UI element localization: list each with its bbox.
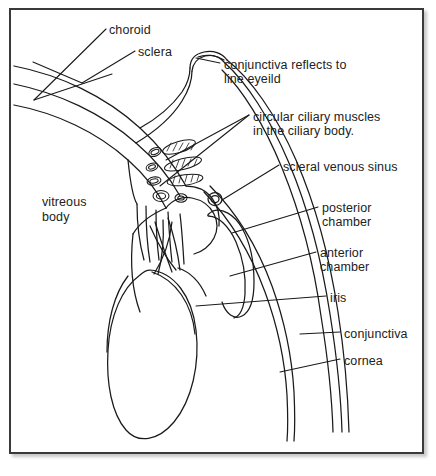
label-conjunctiva-fornix-line2: line eyeild [224,72,281,87]
leader-choroid [34,29,106,100]
ciliary-muscle-bundles [145,137,203,202]
label-iris: iris [330,291,346,306]
leader-sclera [82,51,135,83]
leader-cornea [280,359,340,372]
leader-iris [196,296,326,306]
lens-iris-contact [178,268,206,296]
label-conjunctiva-fornix: conjunctiva reflects to [224,58,347,73]
leader-conjunctiva [300,332,340,334]
leader-scleral-venous-sinus [222,165,279,200]
iris-root [208,211,213,216]
choroid-inner-wall [14,105,166,208]
label-scleral-venous-sinus: scleral venous sinus [283,160,398,175]
label-vitreous-body: vitreous [42,195,87,210]
ciliary-body-outline [166,197,217,254]
label-cornea: cornea [344,354,383,369]
lens-equator-left [107,276,128,352]
sclera-upper-limb [140,68,190,128]
label-posterior-chamber: posterior [322,201,372,216]
leader-conjunctiva-fornix [196,58,220,63]
label-choroid: choroid [109,23,151,38]
label-vitreous-body-line2: body [42,210,70,225]
label-ciliary-muscles-line2: in the ciliary body. [253,124,354,139]
label-posterior-chamber-line2: chamber [322,215,371,230]
label-anterior-chamber-line2: chamber [320,260,369,275]
label-ciliary-muscles: circular ciliary muscles [253,110,380,125]
leader-ciliary-muscles-a [166,115,249,160]
ciliary-processes [137,204,184,264]
vitreous-boundary [132,234,140,312]
eye-diagram-drawing [0,0,436,476]
eye-anatomy-figure: choroid sclera conjunctiva reflects to l… [0,0,436,476]
lens-body [108,270,197,439]
leader-posterior-chamber [232,207,318,233]
label-anterior-chamber: anterior [320,246,363,261]
label-sclera: sclera [138,45,172,60]
cornea-anterior-surface [210,186,295,441]
leader-choroid-2 [34,74,112,100]
label-conjunctiva: conjunctiva [344,327,408,342]
suspensory-ligaments [150,218,180,274]
